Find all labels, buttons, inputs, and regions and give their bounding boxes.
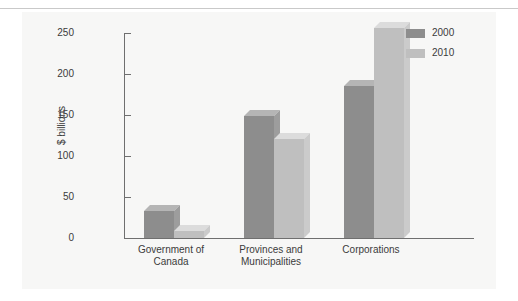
category-label-line2: Municipalities bbox=[211, 256, 331, 268]
bar-government-of-canada-2000 bbox=[144, 211, 174, 238]
x-axis-line bbox=[124, 238, 474, 239]
bar-provinces-and-municipalities-2000 bbox=[244, 116, 274, 238]
y-tick-50 bbox=[125, 197, 131, 198]
y-tick-label-0: 0 bbox=[68, 233, 74, 243]
legend-item-2010: 2010 bbox=[406, 48, 454, 58]
y-axis-title: $ billions bbox=[56, 81, 67, 171]
legend-label-2010: 2010 bbox=[432, 48, 454, 58]
chart-legend: 2000 2010 bbox=[406, 28, 454, 68]
legend-swatch-icon-2010 bbox=[406, 49, 425, 58]
bar-corporations-2010 bbox=[374, 28, 404, 238]
y-tick-200 bbox=[125, 74, 131, 75]
y-axis-line bbox=[124, 33, 125, 239]
bar-front-face bbox=[174, 231, 204, 238]
legend-label-2000: 2000 bbox=[432, 28, 454, 38]
plot-area: 250 200 150 100 50 0 $ billions bbox=[22, 12, 496, 289]
chart-figure: 250 200 150 100 50 0 $ billions bbox=[0, 0, 518, 301]
bar-government-of-canada-2010 bbox=[174, 231, 204, 238]
y-tick-label-50: 50 bbox=[63, 192, 74, 202]
y-tick-label-250: 250 bbox=[57, 28, 74, 38]
bar-front-face bbox=[344, 86, 374, 238]
bar-front-face bbox=[144, 211, 174, 238]
chart-panel: 250 200 150 100 50 0 $ billions bbox=[22, 12, 496, 289]
bar-corporations-2000 bbox=[344, 86, 374, 238]
bar-front-face bbox=[374, 28, 404, 238]
legend-swatch-icon-2000 bbox=[406, 29, 425, 38]
legend-item-2000: 2000 bbox=[406, 28, 454, 38]
bar-front-face bbox=[244, 116, 274, 238]
bar-side-face bbox=[304, 133, 310, 238]
y-tick-250 bbox=[125, 33, 131, 34]
y-tick-100 bbox=[125, 156, 131, 157]
bar-front-face bbox=[274, 139, 304, 238]
category-label-line1: Corporations bbox=[311, 244, 431, 256]
top-divider bbox=[0, 8, 518, 9]
bar-provinces-and-municipalities-2010 bbox=[274, 139, 304, 238]
category-label-corporations: Corporations bbox=[311, 244, 431, 256]
y-tick-label-200: 200 bbox=[57, 69, 74, 79]
y-tick-0 bbox=[125, 238, 131, 239]
y-tick-150 bbox=[125, 115, 131, 116]
